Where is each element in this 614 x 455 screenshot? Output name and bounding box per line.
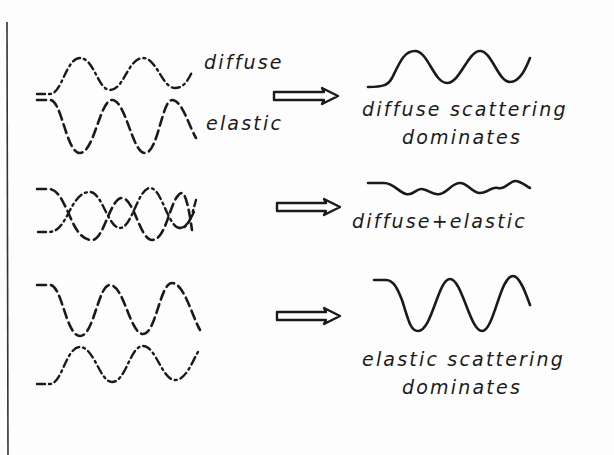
row1-diffuse-wave — [37, 58, 192, 94]
row3-result-sublabel: dominates — [402, 378, 522, 397]
row3-result-wave — [374, 276, 530, 331]
row1-result-sublabel: dominates — [402, 128, 522, 147]
row2-arrow-icon — [277, 199, 340, 215]
scattering-diagram: diffuse elastic diffuse scattering domin… — [0, 0, 614, 455]
row1-result-wave — [368, 51, 530, 87]
row3-diffuse-wave — [37, 346, 198, 384]
row1-elastic-label: elastic — [206, 114, 283, 133]
left-border-line — [7, 22, 8, 455]
row2-result-wave — [368, 181, 530, 194]
row1-elastic-wave — [37, 100, 196, 153]
row3-elastic-wave — [37, 283, 200, 336]
row2-diffuse-wave — [38, 188, 196, 232]
row3-arrow-icon — [277, 308, 340, 324]
row1-arrow-icon — [274, 88, 338, 104]
row2-result-label: diffuse+elastic — [352, 212, 527, 231]
row3-result-label: elastic scattering — [362, 350, 565, 369]
row1-diffuse-label: diffuse — [204, 53, 284, 72]
row1-result-label: diffuse scattering — [362, 100, 568, 119]
